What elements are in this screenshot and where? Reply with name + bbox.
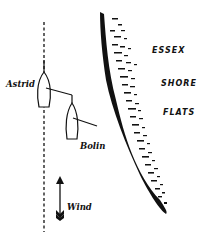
shore-flats	[100, 12, 167, 214]
sailing-diagram	[0, 0, 201, 234]
shore-label-essex: ESSEX	[152, 47, 185, 55]
shore-label-shore: SHORE	[161, 80, 197, 88]
wind-arrow-icon	[56, 176, 64, 221]
boat-label-bolin: Bolin	[80, 142, 106, 151]
boat-bolin	[66, 95, 97, 139]
shore-label-flats: FLATS	[163, 109, 195, 117]
wind-label: Wind	[67, 203, 92, 212]
boat-label-astrid: Astrid	[6, 80, 35, 89]
boat-astrid	[38, 60, 72, 107]
